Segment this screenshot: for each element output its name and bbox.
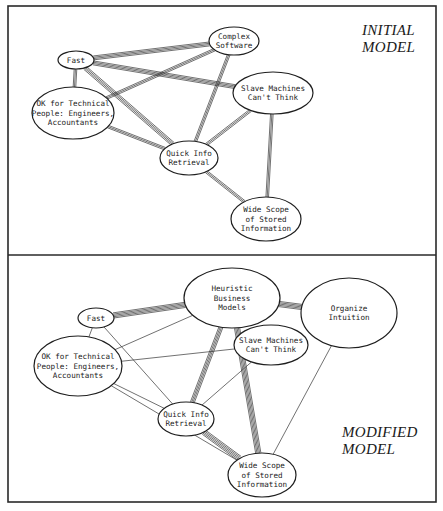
node-label: Intuition xyxy=(328,313,369,322)
node-wide: Wide Scopeof StoredInformation xyxy=(231,197,301,241)
edge-heuristic-organize xyxy=(279,301,302,309)
panel-title-line: MODEL xyxy=(361,39,415,55)
initial-model-title: INITIALMODEL xyxy=(361,22,415,55)
node-fast: Fast xyxy=(78,308,114,328)
edge-fast-ok xyxy=(73,69,77,87)
node-label: Information xyxy=(237,480,287,489)
node-label: Organize xyxy=(331,304,368,313)
diagram-canvas: FastComplexSoftwareSlave MachinesCan't T… xyxy=(0,0,443,511)
edge-ok-heuristic xyxy=(115,315,193,349)
modified-model-title: MODIFIEDMODEL xyxy=(341,424,418,457)
node-label: Wide Scope xyxy=(243,205,289,214)
edge-fast-complex xyxy=(93,42,210,60)
node-label: Information xyxy=(241,224,291,233)
modified-model-nodes: FastHeuristicBusinessModelsOrganizeIntui… xyxy=(34,268,397,497)
edge-slave-wide xyxy=(266,114,273,197)
node-label: of Stored xyxy=(241,471,282,480)
node-label: of Stored xyxy=(245,215,286,224)
node-label: Models xyxy=(218,303,245,312)
node-label: Business xyxy=(214,294,251,303)
node-label: OK for Technical xyxy=(41,352,114,361)
node-quick: Quick InfoRetrieval xyxy=(158,402,214,436)
panel-title-line: INITIAL xyxy=(361,22,415,38)
node-label: Heuristic xyxy=(211,284,252,293)
node-label: Accountants xyxy=(48,118,98,127)
node-wide: Wide Scopeof StoredInformation xyxy=(228,453,296,497)
node-label: Slave Machines xyxy=(239,336,303,345)
node-fast: Fast xyxy=(58,51,94,69)
edge-slave-quick xyxy=(206,109,252,145)
initial-model-panel: FastComplexSoftwareSlave MachinesCan't T… xyxy=(32,22,415,241)
node-label: Fast xyxy=(87,314,105,323)
node-slave: Slave MachinesCan't Think xyxy=(234,325,308,365)
node-label: Accountants xyxy=(53,371,103,380)
node-label: Retrieval xyxy=(165,419,206,428)
node-label: Can't Think xyxy=(248,93,299,102)
node-ok: OK for TechnicalPeople: Engineers,Accoun… xyxy=(34,336,122,396)
node-label: Retrieval xyxy=(168,158,209,167)
node-complex: ComplexSoftware xyxy=(209,27,259,55)
edge-quick-wide xyxy=(202,430,241,461)
edge-quick-wide xyxy=(205,171,245,203)
node-label: Wide Scope xyxy=(239,461,285,470)
edge-ok-slave xyxy=(121,349,234,361)
node-label: People: Engineers, xyxy=(32,109,114,118)
node-organize: OrganizeIntuition xyxy=(301,278,397,348)
node-heuristic: HeuristicBusinessModels xyxy=(184,268,280,328)
edge-fast-heuristic xyxy=(113,302,186,318)
node-label: Complex xyxy=(218,32,250,41)
node-label: Quick Info xyxy=(163,410,209,419)
node-label: Slave Machines xyxy=(241,84,305,93)
node-label: Quick Info xyxy=(166,149,212,158)
node-quick: Quick InfoRetrieval xyxy=(160,141,218,175)
node-label: People: Engineers, xyxy=(37,362,119,371)
node-slave: Slave MachinesCan't Think xyxy=(233,72,313,114)
node-label: Can't Think xyxy=(246,345,297,354)
edge-ok-quick xyxy=(114,384,165,409)
node-label: Fast xyxy=(67,56,85,65)
edge-fast-slave xyxy=(93,61,235,89)
node-ok: OK for TechnicalPeople: Engineers,Accoun… xyxy=(32,87,114,139)
edge-fast-ok xyxy=(89,328,92,337)
panel-title-line: MODEL xyxy=(341,441,395,457)
node-label: Software xyxy=(216,41,253,50)
panel-title-line: MODIFIED xyxy=(341,424,418,440)
node-label: OK for Technical xyxy=(36,99,109,108)
modified-model-panel: FastHeuristicBusinessModelsOrganizeIntui… xyxy=(34,268,418,497)
